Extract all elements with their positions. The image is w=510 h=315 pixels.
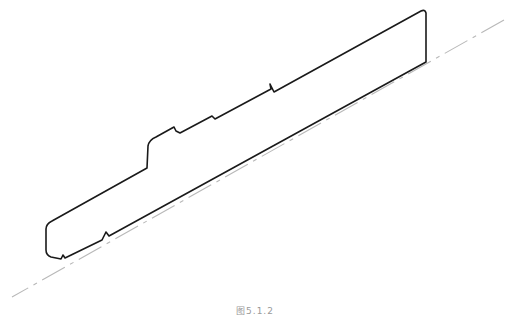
figure-caption: 图5.1.2	[0, 304, 510, 315]
centerline	[12, 20, 504, 297]
part-drawing	[0, 0, 510, 315]
part-outline	[46, 10, 426, 259]
